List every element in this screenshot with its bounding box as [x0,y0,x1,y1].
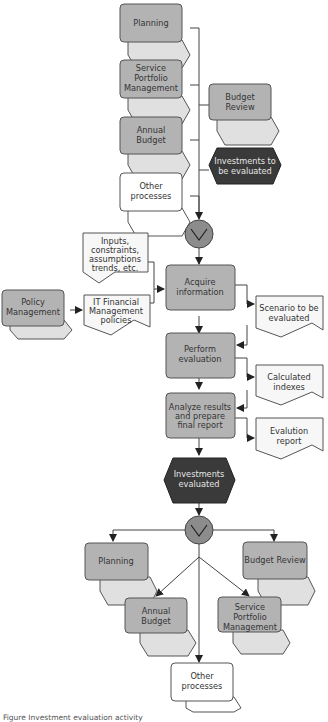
document-calculated-indexes[interactable]: Calculated indexes [256,365,323,405]
function-acquire-information[interactable]: Acquire information [166,265,235,310]
label: evaluated [179,479,220,489]
process-interface-spm-in[interactable]: Service Portfolio Management [120,60,190,124]
investment-evaluation-diagram: Planning Service Portfolio Management Bu… [0,0,328,722]
label: Acquire [185,277,216,287]
label: Service [136,63,166,73]
label: processes [182,681,223,691]
process-interface-budget-review-out[interactable]: Budget Review [243,542,315,605]
arrow-to-spm-out [199,557,249,596]
event-investments-evaluated[interactable]: Investments evaluated [164,458,235,503]
label: Budget [141,616,171,626]
process-interface-other-in[interactable]: Other processes [120,173,190,236]
process-interface-annual-budget-out[interactable]: Annual Budget [125,598,196,656]
arrow-to-planning-out [113,530,186,541]
document-inputs-constraints[interactable]: Inputs, constraints, assumptions trends,… [83,233,148,283]
arrow-scenario-to-perform [237,325,247,345]
label: trends, etc. [92,263,139,273]
arrow-to-budget-review-out [212,530,274,541]
label: Portfolio [233,612,267,622]
label: final report [177,420,223,430]
arrow-indexes-to-analyze [237,390,247,408]
label: Other [190,671,214,681]
label: policies [101,315,132,325]
label: Annual [142,606,170,616]
process-interface-policy-management[interactable]: Policy Management [2,290,72,339]
process-interface-spm-out[interactable]: Service Portfolio Management [218,597,290,654]
label: Budget [136,135,166,145]
label: Annual [137,125,165,135]
process-interface-annual-budget-in[interactable]: Annual Budget [120,117,190,179]
label: report [276,436,302,446]
process-interface-budget-review-in[interactable]: Budget Review [209,84,279,145]
arrow-to-annual-budget-out [156,557,199,596]
label: Service [235,602,265,612]
label: indexes [273,382,304,392]
label: Other [139,181,163,191]
label: Perform [184,344,216,354]
arrow-analyze-to-report [235,418,254,438]
label: Budget [225,92,255,102]
label: Management [223,622,278,632]
or-operator-top[interactable] [185,220,213,248]
function-analyze-results[interactable]: Analyze results and prepare final report [166,393,235,438]
figure-caption: Figure Investment evaluation activity [3,713,143,722]
process-interface-planning-in[interactable]: Planning [120,4,190,68]
label: evaluated [269,313,310,323]
document-itfm-policies[interactable]: IT Financial Management policies [84,295,150,335]
label: processes [131,191,172,201]
process-interface-planning-out[interactable]: Planning [85,543,157,605]
label: evaluation [178,354,221,364]
label: Policy [21,297,45,307]
label: Management [6,307,61,317]
label: Management [124,83,179,93]
label: Investments to [214,156,275,166]
function-perform-evaluation[interactable]: Perform evaluation [166,333,235,378]
label: Review [225,102,255,112]
label: Portfolio [134,73,168,83]
label: information [176,287,223,297]
arrow-acquire-to-scenario [235,285,254,304]
document-evaluation-report[interactable]: Evalution report [256,418,323,459]
label: Planning [98,556,133,566]
label: Evalution [270,426,308,436]
label: be evaluated [218,166,272,176]
document-scenario[interactable]: Scenario to be evaluated [256,296,323,337]
label: Scenario to be [259,303,318,313]
arrow-perform-to-indexes [235,358,254,377]
event-investments-to-be-evaluated[interactable]: Investments to be evaluated [209,148,281,184]
label: Calculated [267,372,310,382]
label: Planning [133,18,168,28]
process-interface-other-out[interactable]: Other processes [171,663,241,712]
label: Budget Review [244,555,306,565]
or-operator-bottom[interactable] [185,516,213,544]
label: Investments [174,469,225,479]
